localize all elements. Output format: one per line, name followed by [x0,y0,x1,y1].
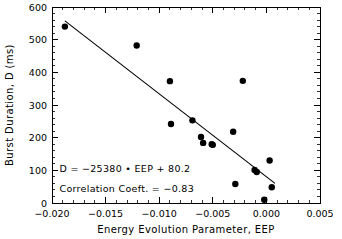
y-tick-label: 500 [29,34,47,45]
scatter-plot: −0.020−0.015−0.010−0.0050.0000.005 01002… [0,0,342,239]
data-point [200,140,206,146]
data-point [266,157,272,163]
annotation-correlation: Correlation Coeft. = −0.83 [60,183,195,194]
x-tick-label: −0.005 [195,208,230,219]
data-point [232,181,238,187]
data-point [240,78,246,84]
x-tick-label: −0.015 [88,208,123,219]
data-point [189,117,195,123]
data-point [210,142,216,148]
plot-annotations: D = −25380 • EEP + 80.2Correlation Coeft… [60,163,195,194]
data-point [230,129,236,135]
data-point [269,184,275,190]
data-point [168,121,174,127]
y-tick-label: 300 [29,100,47,111]
y-tick-label: 600 [29,2,47,13]
regression-line [65,21,275,183]
x-tick-label: 0.000 [253,208,280,219]
data-point [261,197,267,203]
y-axis-label: Burst Duration, D (ms) [4,44,15,166]
data-point [167,78,173,84]
data-point [133,42,139,48]
y-tick-label: 100 [29,165,47,176]
y-axis-tick-labels: 0100200300400500600 [29,2,47,209]
fit-line [65,21,275,183]
data-point [62,23,68,29]
x-tick-label: −0.020 [34,208,69,219]
data-point [254,169,260,175]
x-tick-label: 0.005 [306,208,333,219]
x-tick-label: −0.010 [142,208,177,219]
data-point [198,134,204,140]
x-axis-tick-labels: −0.020−0.015−0.010−0.0050.0000.005 [34,208,333,219]
x-axis-label: Energy Evolution Parameter, EEP [97,224,274,235]
y-tick-label: 0 [41,198,47,209]
data-points [62,23,275,203]
chart-screenshot: −0.020−0.015−0.010−0.0050.0000.005 01002… [0,0,342,239]
y-tick-label: 200 [29,132,47,143]
annotation-equation: D = −25380 • EEP + 80.2 [60,163,191,174]
y-tick-label: 400 [29,67,47,78]
